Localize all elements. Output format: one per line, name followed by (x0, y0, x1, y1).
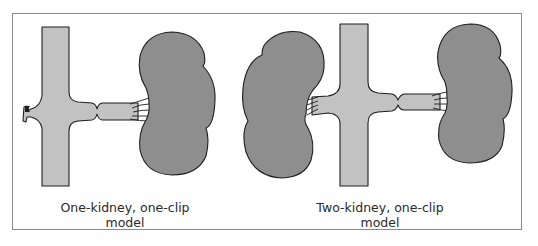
panel-one-kidney-one-clip (23, 27, 215, 186)
ligature-icon (25, 106, 30, 112)
caption-line-1: Two-kidney, one-clip (295, 200, 465, 215)
caption-two-kidney-one-clip: Two-kidney, one-clip model (295, 200, 465, 230)
kidney-left-panel (139, 32, 215, 175)
aorta-left-panel (23, 27, 138, 186)
kidney-clipped (438, 24, 512, 163)
caption-one-kidney-one-clip: One-kidney, one-clip model (40, 200, 210, 230)
aorta-right-panel (312, 24, 440, 186)
panel-two-kidney-one-clip (243, 24, 513, 186)
caption-line-2: model (40, 215, 210, 230)
caption-line-1: One-kidney, one-clip (40, 200, 210, 215)
caption-line-2: model (295, 215, 465, 230)
